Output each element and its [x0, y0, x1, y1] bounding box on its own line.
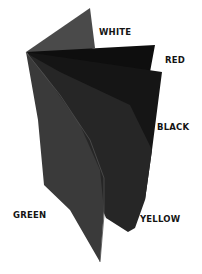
- label-green: GREEN: [13, 210, 46, 220]
- white-sheet: [26, 8, 95, 55]
- label-yellow: YELLOW: [140, 214, 180, 224]
- label-black: BLACK: [157, 122, 189, 132]
- booklet-figure: WHITE RED BLACK GREEN YELLOW: [0, 0, 202, 274]
- label-white: WHITE: [99, 27, 131, 37]
- booklet-illustration: [0, 0, 202, 274]
- label-red: RED: [165, 55, 185, 65]
